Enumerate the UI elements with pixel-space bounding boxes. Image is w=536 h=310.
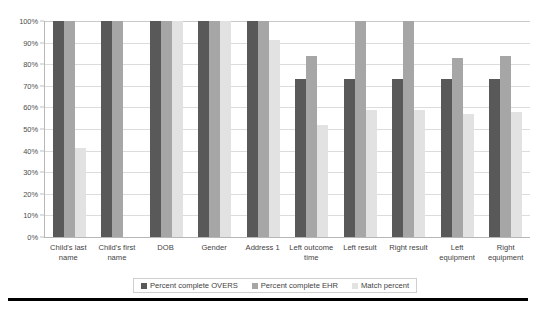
y-axis-tick-label: 20% bbox=[23, 189, 38, 198]
y-axis-tick-label: 40% bbox=[23, 146, 38, 155]
legend-label: Percent complete EHR bbox=[261, 281, 338, 290]
bottom-divider-rule bbox=[8, 298, 528, 301]
bar[interactable] bbox=[112, 21, 123, 237]
bar-group bbox=[288, 21, 337, 237]
legend-item[interactable]: Percent complete EHR bbox=[252, 281, 338, 290]
x-axis-label: DOB bbox=[141, 243, 190, 273]
x-axis-label: Left result bbox=[336, 243, 385, 273]
bar[interactable] bbox=[511, 112, 522, 237]
y-axis-tick-label: 10% bbox=[23, 211, 38, 220]
y-axis-tick-label: 0% bbox=[27, 233, 38, 242]
bar[interactable] bbox=[209, 21, 220, 237]
y-axis-tick-label: 30% bbox=[23, 168, 38, 177]
bar[interactable] bbox=[403, 21, 414, 237]
legend-item[interactable]: Percent complete OVERS bbox=[141, 281, 238, 290]
x-axis-label: Gender bbox=[190, 243, 239, 273]
bar[interactable] bbox=[53, 21, 64, 237]
bar[interactable] bbox=[366, 110, 377, 237]
legend-label: Match percent bbox=[361, 281, 409, 290]
x-axis-label: Right result bbox=[384, 243, 433, 273]
bar[interactable] bbox=[392, 79, 403, 237]
y-axis-tick-label: 80% bbox=[23, 60, 38, 69]
bar-group bbox=[142, 21, 191, 237]
bar[interactable] bbox=[441, 79, 452, 237]
bar[interactable] bbox=[489, 79, 500, 237]
y-axis-tick-label: 60% bbox=[23, 103, 38, 112]
bar[interactable] bbox=[452, 58, 463, 237]
chart-legend: Percent complete OVERSPercent complete E… bbox=[133, 278, 417, 293]
bar[interactable] bbox=[172, 21, 183, 237]
bar-group bbox=[336, 21, 385, 237]
x-axis-category-labels: Child's last nameChild's first nameDOBGe… bbox=[44, 243, 530, 273]
x-axis-label: Left equipment bbox=[433, 243, 482, 273]
x-axis-label: Right equipment bbox=[481, 243, 530, 273]
legend-label: Percent complete OVERS bbox=[150, 281, 238, 290]
bar[interactable] bbox=[258, 21, 269, 237]
plot-area bbox=[44, 21, 530, 238]
bar[interactable] bbox=[64, 21, 75, 237]
bar[interactable] bbox=[463, 114, 474, 237]
bar-group bbox=[94, 21, 143, 237]
bar[interactable] bbox=[295, 79, 306, 237]
bar[interactable] bbox=[75, 148, 86, 237]
x-axis-label: Child's last name bbox=[44, 243, 93, 273]
legend-color-swatch bbox=[141, 283, 147, 289]
plot-wrapper: 100%90%80%70%60%50%40%30%20%10%0% bbox=[0, 10, 536, 242]
bar[interactable] bbox=[344, 79, 355, 237]
bar[interactable] bbox=[198, 21, 209, 237]
legend-color-swatch bbox=[352, 283, 358, 289]
y-axis-tick-label: 90% bbox=[23, 38, 38, 47]
bar-group bbox=[191, 21, 240, 237]
bar[interactable] bbox=[414, 110, 425, 237]
bar[interactable] bbox=[269, 40, 280, 237]
bar[interactable] bbox=[355, 21, 366, 237]
legend-color-swatch bbox=[252, 283, 258, 289]
bar[interactable] bbox=[101, 21, 112, 237]
y-axis-tick-label: 100% bbox=[19, 17, 38, 26]
x-axis-label: Left outcome time bbox=[287, 243, 336, 273]
y-axis-tick-label: 50% bbox=[23, 125, 38, 134]
bars-layer bbox=[45, 21, 530, 237]
bar[interactable] bbox=[161, 21, 172, 237]
y-axis: 100%90%80%70%60%50%40%30%20%10%0% bbox=[0, 10, 44, 242]
bar-group bbox=[239, 21, 288, 237]
bar[interactable] bbox=[317, 125, 328, 237]
bar-chart-figure: 100%90%80%70%60%50%40%30%20%10%0% Child'… bbox=[0, 0, 536, 310]
y-axis-tick-label: 70% bbox=[23, 81, 38, 90]
bar-group bbox=[482, 21, 531, 237]
x-axis-label: Address 1 bbox=[238, 243, 287, 273]
bar-group bbox=[385, 21, 434, 237]
bar-group bbox=[433, 21, 482, 237]
bar[interactable] bbox=[247, 21, 258, 237]
bar[interactable] bbox=[306, 56, 317, 237]
bar[interactable] bbox=[150, 21, 161, 237]
bar-group bbox=[45, 21, 94, 237]
bar[interactable] bbox=[500, 56, 511, 237]
bar[interactable] bbox=[220, 21, 231, 237]
x-axis-label: Child's first name bbox=[93, 243, 142, 273]
legend-item[interactable]: Match percent bbox=[352, 281, 409, 290]
